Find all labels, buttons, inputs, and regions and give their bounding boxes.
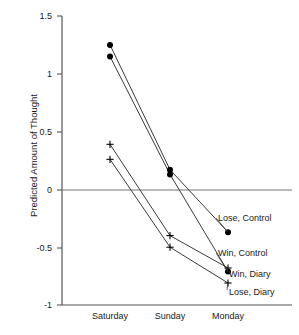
y-tick-marks	[57, 16, 62, 305]
x-tick-label-saturday: Saturday	[78, 311, 142, 321]
series-label-lose-diary: Lose, Diary	[229, 287, 275, 297]
series-line	[110, 45, 228, 232]
data-point-circle	[107, 42, 113, 48]
data-point-plus	[166, 244, 173, 251]
data-marker-layer	[106, 42, 231, 287]
series-label-win-control: Win, Control	[218, 248, 268, 258]
data-point-plus	[106, 156, 113, 163]
x-tick-label-monday: Monday	[198, 311, 258, 321]
data-point-plus	[166, 232, 173, 239]
chart-figure: 1.5 1 0.5 0 -0.5 -1 Saturday Sunday Mond…	[0, 0, 299, 335]
data-point-plus	[106, 141, 113, 148]
y-tick-label-minus-0-5: -0.5	[22, 243, 52, 253]
y-axis-title: Predicted Amount of Thought	[28, 71, 39, 241]
data-point-circle	[107, 54, 113, 60]
y-tick-label-minus-1: -1	[22, 300, 52, 310]
data-point-circle	[167, 171, 173, 177]
series-label-win-diary: Win, Diary	[229, 269, 271, 279]
y-tick-label-1-5: 1.5	[24, 11, 52, 21]
series-label-lose-control: Lose, Control	[218, 213, 272, 223]
legend-leader-line	[227, 283, 228, 290]
series-line	[110, 159, 228, 283]
x-tick-label-sunday: Sunday	[140, 311, 200, 321]
series-line	[110, 144, 228, 268]
chart-plot-area	[0, 0, 299, 335]
series-line	[110, 57, 228, 272]
